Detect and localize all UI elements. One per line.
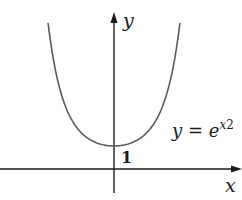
y-intercept-label: 1 bbox=[121, 150, 132, 166]
function-graph bbox=[0, 0, 242, 200]
equation-equals: = bbox=[188, 120, 203, 141]
equation-lhs: y bbox=[172, 120, 182, 141]
equation-label: y = ex2 bbox=[172, 122, 234, 140]
equation-base: e bbox=[209, 120, 220, 141]
equation-exponent-power: 2 bbox=[226, 118, 234, 132]
x-axis-label: x bbox=[225, 176, 236, 195]
y-axis-arrow-icon bbox=[111, 12, 118, 23]
x-axis-arrow-icon bbox=[231, 166, 242, 173]
y-axis-label: y bbox=[123, 11, 134, 30]
